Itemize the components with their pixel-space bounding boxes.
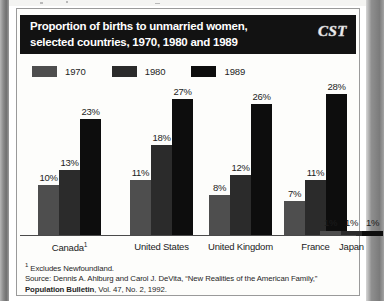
legend-label-1989: 1989 [224, 66, 245, 77]
chart-plot-area: 10%13%23%11%18%27%8%12%26%7%11%28%1%1%1% [20, 84, 356, 236]
footnote-excludes: 1 Excludes Newfoundland. [25, 260, 347, 274]
legend-item-1970: 1970 [32, 66, 86, 77]
legend-swatch-1980 [112, 66, 137, 77]
source-suffix: , Vol. 47, No. 2, 1992. [94, 285, 167, 294]
category-footnote-marker: 1 [84, 241, 87, 248]
bar: 10% [38, 185, 59, 236]
scan-gutter-left [0, 0, 9, 301]
legend-item-1980: 1980 [112, 66, 166, 77]
source-note: Source: Dennis A. Ahlburg and Carol J. D… [25, 274, 347, 295]
bar-value-label: 27% [173, 86, 191, 97]
bar: 7% [284, 201, 305, 236]
bar-value-label: 11% [132, 167, 149, 178]
bar-group: 8%12%26% [209, 84, 272, 236]
bar-group: 10%13%23% [38, 84, 101, 236]
legend-item-1989: 1989 [191, 66, 245, 77]
chart-title-line-1: Proportion of births to unmarried women, [30, 19, 295, 35]
bar-value-label: 18% [152, 132, 170, 143]
bar-value-label: 13% [60, 157, 78, 168]
bar-group: 11%18%27% [130, 84, 193, 236]
footnote-text: Excludes Newfoundland. [28, 264, 114, 273]
chart-category-labels: Canada1United StatesUnited KingdomFrance… [20, 241, 356, 255]
bar-value-label: 1% [366, 217, 379, 228]
legend-swatch-1989 [191, 66, 216, 77]
chart-title-line-2: selected countries, 1970, 1980 and 1989 [30, 35, 295, 51]
category-label: United States [134, 241, 188, 252]
bar: 26% [251, 104, 272, 236]
scan-top-margin [9, 0, 366, 6]
bar-value-label: 1% [324, 217, 337, 228]
bar-value-label: 10% [39, 172, 57, 183]
bar-value-label: 7% [288, 188, 301, 199]
bar: 27% [172, 99, 193, 236]
bar-group: 1%1%1% [320, 84, 383, 236]
bar: 12% [230, 175, 251, 236]
chart-legend: 1970 1980 1989 [32, 63, 245, 79]
chart-footnotes: 1 Excludes Newfoundland. Source: Dennis … [25, 260, 347, 295]
legend-label-1980: 1980 [145, 66, 166, 77]
chart-title-bar: Proportion of births to unmarried women,… [20, 15, 356, 54]
cst-logo: CST [318, 23, 347, 40]
category-label: France [301, 241, 329, 252]
bar: 8% [209, 195, 230, 236]
legend-swatch-1970 [32, 66, 57, 77]
bar: 13% [59, 170, 80, 236]
chart-baseline-axis [20, 235, 356, 236]
bar-value-label: 12% [231, 162, 249, 173]
bar: 18% [151, 145, 172, 236]
bar: 23% [80, 119, 101, 236]
figure-screenshot: Proportion of births to unmarried women,… [0, 0, 384, 301]
bar: 11% [130, 180, 151, 236]
category-label: Japan [339, 241, 364, 252]
chart-title: Proportion of births to unmarried women,… [30, 19, 295, 50]
bar: 1% [362, 231, 383, 236]
bar-value-label: 23% [81, 106, 99, 117]
bar-value-label: 26% [252, 91, 270, 102]
category-label: Canada1 [52, 241, 88, 253]
scan-speck [40, 2, 43, 4]
legend-label-1970: 1970 [65, 66, 86, 77]
source-prefix: Source: Dennis A. Ahlburg and Carol J. D… [25, 274, 317, 283]
bar-value-label: 1% [345, 217, 358, 228]
category-label: United Kingdom [208, 241, 273, 252]
scan-speck [66, 1, 68, 3]
scan-speck [155, 3, 160, 4]
source-publication: Population Bulletin [25, 285, 94, 294]
bar-value-label: 8% [213, 182, 226, 193]
